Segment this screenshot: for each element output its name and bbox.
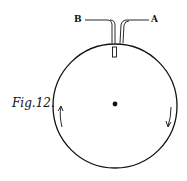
arrow-up-icon (60, 107, 62, 127)
slot (113, 47, 117, 57)
wire-b (85, 20, 112, 43)
figure-caption: Fig.12. (12, 97, 55, 109)
tube-a (123, 21, 129, 43)
diagram (0, 0, 187, 181)
label-b: B (74, 15, 82, 24)
tube-b (110, 20, 115, 43)
label-a: A (151, 15, 158, 24)
center-dot (113, 102, 118, 107)
